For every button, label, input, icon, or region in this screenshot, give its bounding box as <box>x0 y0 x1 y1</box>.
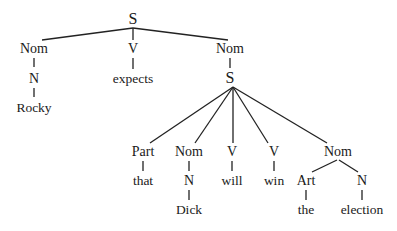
edge-s_emb-nom_elec <box>233 87 327 143</box>
node-n-elec: N <box>357 174 367 188</box>
node-nom-elec: Nom <box>324 145 352 159</box>
edge-s_root-nom_subj <box>42 28 133 40</box>
node-w-dick: Dick <box>176 203 202 217</box>
node-w-election: election <box>341 203 384 217</box>
node-w-that: that <box>133 174 153 188</box>
node-part: Part <box>132 145 155 159</box>
tree-edges <box>0 0 397 231</box>
node-v-win: V <box>269 145 279 159</box>
edge-s_emb-v_win <box>233 87 268 143</box>
node-s-root: S <box>129 11 138 27</box>
node-nom-obj: Nom <box>216 42 244 56</box>
node-w-will: will <box>221 174 242 188</box>
syntax-tree-diagram: SNomNRockyVexpectsNomSPartthatNomNDickVw… <box>0 0 397 231</box>
node-v-will: V <box>227 145 237 159</box>
node-nom-emb: Nom <box>175 145 203 159</box>
node-w-rocky: Rocky <box>16 101 51 115</box>
node-n-emb: N <box>184 174 194 188</box>
edge-nom_elec-art <box>312 160 337 172</box>
edge-nom_elec-n_elec <box>339 160 358 172</box>
node-nom-subj: Nom <box>20 42 48 56</box>
edge-s_emb-nom_emb <box>195 87 233 143</box>
edge-s_emb-part <box>150 87 233 143</box>
node-w-win: win <box>264 174 284 188</box>
node-w-the: the <box>298 203 315 217</box>
node-s-emb: S <box>226 70 235 86</box>
node-art: Art <box>297 174 316 188</box>
edge-s_root-nom_obj <box>133 28 228 40</box>
node-n-subj: N <box>29 72 39 86</box>
node-w-expects: expects <box>113 72 153 86</box>
node-v-main: V <box>128 42 138 56</box>
